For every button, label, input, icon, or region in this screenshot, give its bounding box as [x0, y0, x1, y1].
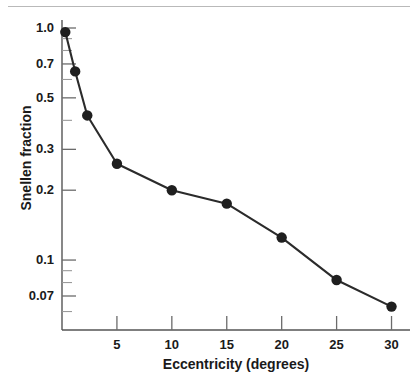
y-tick-label: 0.7 [0, 57, 54, 70]
data-point-marker [167, 185, 177, 195]
data-point-marker [82, 110, 92, 120]
series-line [65, 32, 391, 307]
x-tick-label: 15 [207, 338, 247, 351]
data-point-marker [276, 232, 286, 242]
data-point-marker [331, 275, 341, 285]
data-series-snellen-fraction [60, 27, 397, 312]
figure-canvas: 1.00.70.50.30.20.10.07 51015202530 Eccen… [0, 0, 418, 385]
data-point-marker [112, 159, 122, 169]
line-chart-plot [0, 0, 418, 385]
data-point-marker [70, 66, 80, 76]
axes-group [62, 20, 410, 330]
x-tick-label: 30 [372, 338, 412, 351]
x-axis-title: Eccentricity (degrees) [62, 356, 410, 372]
y-axis-title: Snellen fraction [18, 88, 34, 228]
data-point-marker [386, 301, 396, 311]
y-tick-label: 0.07 [0, 289, 54, 302]
x-tick-label: 25 [317, 338, 357, 351]
tick-marks-group [62, 28, 392, 330]
x-tick-label: 5 [97, 338, 137, 351]
y-tick-label: 1.0 [0, 21, 54, 34]
y-tick-label: 0.1 [0, 253, 54, 266]
data-point-marker [60, 27, 70, 37]
x-tick-label: 10 [152, 338, 192, 351]
x-tick-label: 20 [262, 338, 302, 351]
data-point-marker [222, 198, 232, 208]
